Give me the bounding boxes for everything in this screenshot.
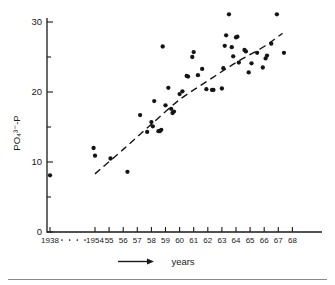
x-tick-label: 65: [246, 236, 255, 245]
data-point: [93, 154, 97, 158]
data-point: [200, 67, 204, 71]
data-point: [227, 12, 231, 16]
right-arrow-head-icon: [147, 258, 154, 264]
data-point: [196, 73, 200, 77]
x-tick-label: 64: [232, 236, 241, 245]
data-series: [48, 12, 286, 177]
x-tick-label: 63: [217, 236, 226, 245]
data-point: [149, 120, 153, 124]
data-point: [48, 173, 52, 177]
x-tick-label: 60: [175, 236, 184, 245]
data-point: [163, 103, 167, 107]
data-point: [255, 51, 259, 55]
y-axis-ticks: 0102030: [31, 16, 53, 237]
data-point: [261, 65, 265, 69]
data-point: [244, 49, 248, 53]
x-tick-label: 1954: [86, 236, 104, 245]
data-point: [211, 88, 215, 92]
y-tick-label: 20: [31, 86, 42, 97]
x-tick-label: 57: [133, 236, 142, 245]
break-dot: [69, 239, 71, 241]
y-axis-title: PO₄³⁻-P: [11, 115, 22, 150]
data-point: [91, 146, 95, 150]
data-point: [249, 61, 253, 65]
data-point: [152, 99, 156, 103]
data-point: [166, 86, 170, 90]
break-dot: [84, 239, 86, 241]
data-point: [204, 87, 208, 91]
data-point: [180, 89, 184, 93]
data-point: [190, 55, 194, 59]
data-point: [186, 74, 190, 78]
scatter-chart-figure: 0102030PO₄³⁻-P19381954555657585960616263…: [0, 0, 335, 285]
x-tick-label: 56: [119, 236, 128, 245]
data-point: [192, 50, 196, 54]
axes-group: [47, 18, 322, 232]
data-point: [125, 170, 129, 174]
data-point: [269, 42, 273, 46]
data-point: [275, 12, 279, 16]
y-tick-label: 30: [31, 16, 42, 27]
data-point: [237, 60, 241, 64]
data-point: [224, 33, 228, 37]
data-point: [247, 70, 251, 74]
x-axis-break-dots: [61, 239, 86, 241]
x-tick-label: 61: [189, 236, 198, 245]
data-point: [231, 54, 235, 58]
data-point: [265, 53, 269, 57]
data-point: [161, 44, 165, 48]
break-dot: [76, 239, 78, 241]
x-axis-title: years: [171, 256, 194, 267]
data-point: [159, 128, 163, 132]
data-point: [235, 35, 239, 39]
data-point: [230, 45, 234, 49]
data-point: [282, 51, 286, 55]
y-tick-label: 10: [31, 156, 42, 167]
break-dot: [61, 239, 63, 241]
x-tick-label: 55: [105, 236, 114, 245]
data-point: [172, 109, 176, 113]
data-point: [220, 86, 224, 90]
x-tick-label: 59: [161, 236, 170, 245]
data-point: [223, 44, 227, 48]
x-tick-label: 1938: [41, 236, 59, 245]
x-axis-title-group: years: [118, 256, 195, 267]
x-tick-label: 58: [147, 236, 156, 245]
x-tick-label: 67: [274, 236, 283, 245]
trend-curve: [95, 33, 283, 174]
x-tick-label: 62: [203, 236, 212, 245]
x-axis-ticks: 193819545556575859606162636465666768: [41, 227, 297, 245]
data-point: [151, 124, 155, 128]
axis-lines: [47, 18, 322, 232]
x-tick-label: 68: [288, 236, 297, 245]
data-point: [108, 156, 112, 160]
data-point: [145, 130, 149, 134]
data-point: [221, 66, 225, 70]
data-point: [138, 113, 142, 117]
x-tick-label: 66: [260, 236, 269, 245]
